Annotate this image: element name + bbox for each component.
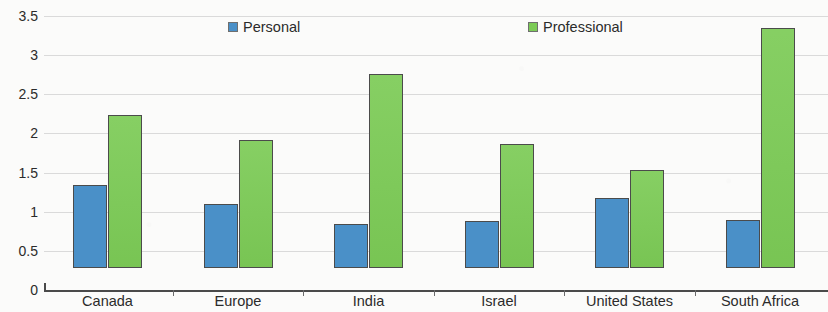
bar-group	[73, 0, 142, 268]
gridline	[44, 16, 828, 17]
bar-personal-israel	[465, 221, 499, 268]
bar-group	[204, 0, 273, 268]
gridline	[44, 94, 828, 95]
bar-personal-south-africa	[726, 220, 760, 268]
gridline	[44, 173, 828, 174]
bar-personal-canada	[73, 185, 107, 268]
bar-professional-south-africa	[761, 28, 795, 268]
legend-swatch-personal-icon	[228, 22, 238, 32]
y-axis-tick-label: 1.5	[0, 166, 38, 180]
bar-personal-europe	[204, 204, 238, 268]
gridline	[44, 212, 828, 213]
category-label-europe: Europe	[163, 294, 313, 309]
category-label-canada: Canada	[33, 294, 183, 309]
y-axis-tick-label: 0.5	[0, 244, 38, 258]
bar-professional-canada	[108, 115, 142, 268]
bar-group	[595, 0, 664, 268]
gridline	[44, 55, 828, 56]
bar-professional-india	[369, 74, 403, 268]
y-axis-tick-label: 3	[0, 48, 38, 62]
bar-personal-united-states	[595, 198, 629, 268]
gridline	[44, 251, 828, 252]
legend-swatch-professional-icon	[528, 22, 538, 32]
category-label-india: India	[294, 294, 444, 309]
y-axis-tick-label: 2.5	[0, 87, 38, 101]
bar-personal-india	[334, 224, 368, 268]
legend-item-professional[interactable]: Professional	[528, 20, 623, 35]
bar-group	[334, 0, 403, 268]
y-axis-tick-label: 2	[0, 126, 38, 140]
legend-item-personal[interactable]: Personal	[228, 20, 300, 35]
bar-group	[726, 0, 795, 268]
legend-label: Personal	[243, 20, 300, 35]
chart-legend: PersonalProfessional	[0, 20, 828, 38]
category-label-israel: Israel	[424, 294, 574, 309]
bar-chart: 00.511.522.533.5 CanadaEuropeIndiaIsrael…	[0, 0, 828, 312]
legend-label: Professional	[543, 20, 623, 35]
gridline	[44, 133, 828, 134]
bar-professional-europe	[239, 140, 273, 268]
x-axis-line	[44, 290, 828, 292]
plot-area	[44, 16, 828, 290]
category-label-south-africa: South Africa	[685, 294, 828, 309]
bar-professional-united-states	[630, 170, 664, 268]
category-label-united-states: United States	[555, 294, 705, 309]
bar-group	[465, 0, 534, 268]
y-axis-tick-label: 1	[0, 205, 38, 219]
bar-professional-israel	[500, 144, 534, 268]
y-axis-origin-tick	[44, 283, 46, 292]
